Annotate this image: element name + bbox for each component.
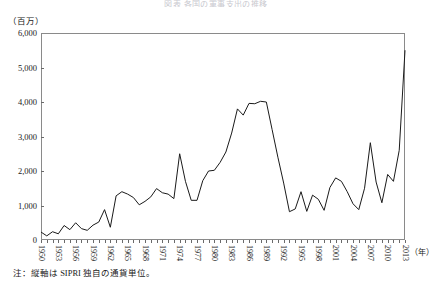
x-tick-mark: [318, 240, 319, 243]
x-tick-mark: [81, 240, 82, 243]
x-tick-label: 1980: [210, 245, 219, 261]
y-tick-label: 2,000: [18, 166, 37, 176]
x-tick-label: 1953: [54, 245, 63, 261]
x-tick-mark: [209, 240, 210, 243]
y-tick-mark: [41, 137, 44, 138]
x-tick-mark: [58, 240, 59, 243]
x-tick-mark: [324, 240, 325, 243]
x-tick-mark: [405, 240, 406, 243]
x-tick-mark: [237, 240, 238, 243]
y-tick-mark: [41, 102, 44, 103]
x-tick-label: 1983: [227, 245, 236, 261]
x-tick-label: 1956: [71, 245, 80, 261]
x-tick-mark: [341, 240, 342, 243]
x-tick-mark: [365, 240, 366, 243]
x-tick-mark: [64, 240, 65, 243]
x-tick-label: 1968: [141, 245, 150, 261]
y-tick-label: 4,000: [18, 97, 37, 107]
x-tick-label: 1995: [297, 245, 306, 261]
x-tick-mark: [399, 240, 400, 243]
x-tick-mark: [336, 240, 337, 243]
y-tick-label: 0: [33, 235, 37, 245]
x-tick-label: 1965: [123, 245, 132, 261]
x-tick-label: 1962: [106, 245, 115, 261]
x-tick-mark: [313, 240, 314, 243]
x-tick-label: 1974: [175, 245, 184, 261]
x-tick-mark: [301, 240, 302, 243]
x-tick-mark: [70, 240, 71, 243]
x-tick-label: 2007: [366, 245, 375, 261]
x-tick-mark: [382, 240, 383, 243]
y-tick-mark: [41, 171, 44, 172]
x-tick-mark: [284, 240, 285, 243]
x-tick-mark: [347, 240, 348, 243]
x-tick-mark: [105, 240, 106, 243]
x-tick-mark: [255, 240, 256, 243]
x-tick-mark: [116, 240, 117, 243]
x-tick-mark: [180, 240, 181, 243]
x-tick-mark: [185, 240, 186, 243]
x-tick-mark: [289, 240, 290, 243]
x-tick-mark: [93, 240, 94, 243]
y-tick-mark: [41, 206, 44, 207]
x-tick-mark: [220, 240, 221, 243]
x-tick-mark: [388, 240, 389, 243]
x-tick-mark: [266, 240, 267, 243]
chart-figure: 図表 各国の軍事支出の推移 （百万） 6,0005,0004,0003,0002…: [0, 0, 432, 282]
y-axis-tick-labels: 6,0005,0004,0003,0002,0001,0000: [0, 33, 37, 240]
x-tick-mark: [110, 240, 111, 243]
x-tick-label: 2013: [401, 245, 410, 261]
x-tick-mark: [278, 240, 279, 243]
series-polyline: [41, 50, 405, 236]
x-tick-mark: [53, 240, 54, 243]
x-tick-label: 1986: [245, 245, 254, 261]
x-tick-mark: [76, 240, 77, 243]
x-tick-mark: [99, 240, 100, 243]
y-tick-label: 1,000: [18, 201, 37, 211]
chart-footnote: 注：縦軸は SIPRI 独自の通貨単位。: [13, 266, 155, 278]
x-tick-mark: [47, 240, 48, 243]
x-tick-label: 2004: [349, 245, 358, 261]
x-tick-mark: [353, 240, 354, 243]
y-tick-label: 3,000: [18, 132, 37, 142]
x-tick-label: 1977: [193, 245, 202, 261]
x-tick-mark: [307, 240, 308, 243]
x-tick-label: 1989: [262, 245, 271, 261]
x-tick-mark: [151, 240, 152, 243]
x-tick-mark: [243, 240, 244, 243]
y-axis-unit-label: （百万）: [8, 14, 44, 26]
x-tick-mark: [157, 240, 158, 243]
x-tick-mark: [376, 240, 377, 243]
x-tick-mark: [330, 240, 331, 243]
x-tick-mark: [295, 240, 296, 243]
x-tick-mark: [174, 240, 175, 243]
x-tick-mark: [133, 240, 134, 243]
x-tick-mark: [249, 240, 250, 243]
x-tick-mark: [197, 240, 198, 243]
x-tick-mark: [232, 240, 233, 243]
x-tick-mark: [214, 240, 215, 243]
y-tick-label: 6,000: [18, 28, 37, 38]
x-tick-label: 1959: [89, 245, 98, 261]
x-tick-mark: [191, 240, 192, 243]
x-tick-label: 1950: [37, 245, 46, 261]
x-tick-mark: [128, 240, 129, 243]
chart-title: 図表 各国の軍事支出の推移: [0, 0, 432, 7]
x-tick-mark: [139, 240, 140, 243]
plot-area: [41, 33, 405, 240]
x-axis-unit-label: （年）: [410, 246, 432, 257]
x-tick-mark: [272, 240, 273, 243]
series-line-chart: [41, 33, 405, 240]
y-tick-label: 5,000: [18, 63, 37, 73]
y-tick-mark: [41, 68, 44, 69]
x-tick-mark: [370, 240, 371, 243]
x-tick-mark: [226, 240, 227, 243]
x-tick-mark: [122, 240, 123, 243]
x-tick-label: 1998: [314, 245, 323, 261]
x-tick-mark: [203, 240, 204, 243]
x-tick-mark: [41, 240, 42, 243]
x-tick-mark: [393, 240, 394, 243]
x-tick-label: 2010: [383, 245, 392, 261]
x-tick-label: 1992: [279, 245, 288, 261]
x-tick-mark: [145, 240, 146, 243]
